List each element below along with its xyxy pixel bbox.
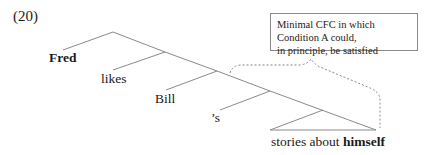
annotation-box: Minimal CFC in which Condition A could, …	[270, 13, 418, 51]
leaf-possessive-s: ’s	[211, 110, 220, 126]
branch-spine-2	[165, 52, 217, 71]
leaf-bill: Bill	[155, 91, 175, 107]
annotation-line-2: in principle, be satisfied	[277, 44, 411, 57]
branch-bill	[166, 71, 217, 90]
branch-spine-3	[217, 71, 270, 91]
branch-spine-1	[113, 32, 165, 52]
branch-fred	[63, 32, 113, 50]
leaf-likes: likes	[101, 71, 127, 87]
dotted-brace	[230, 59, 380, 128]
triangle-left-edge	[270, 110, 323, 130]
branch-likes	[113, 52, 165, 70]
leaf-fred: Fred	[49, 50, 77, 66]
leaf-triangle-phrase: stories about himself	[271, 134, 385, 150]
phrase-prefix: stories about	[271, 134, 343, 149]
annotation-line-1: Minimal CFC in which Condition A could,	[277, 18, 411, 44]
phrase-himself: himself	[343, 134, 385, 149]
branch-s	[220, 91, 270, 110]
